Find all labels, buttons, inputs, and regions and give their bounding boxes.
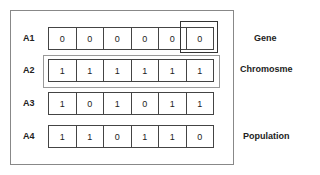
cell: 1 [159,60,187,81]
row-a2-cells: 1 1 1 1 1 1 [48,59,214,82]
cell: 0 [77,93,105,114]
cell: 1 [49,93,77,114]
cell: 0 [187,126,214,147]
cell: 1 [49,60,77,81]
cell: 0 [132,28,160,49]
row-a4-cells: 1 1 0 1 1 0 [48,125,214,148]
row-label-a2: A2 [23,65,43,75]
cell: 1 [132,126,160,147]
cell: 1 [159,126,187,147]
cell: 1 [104,60,132,81]
gene-label: Gene [254,33,277,43]
population-label: Population [243,131,290,141]
cell: 1 [104,93,132,114]
cell: 0 [104,126,132,147]
cell: 0 [49,28,77,49]
cell: 1 [132,60,160,81]
cell: 1 [77,60,105,81]
row-label-a3: A3 [23,98,43,108]
chromosome-label: Chromosme [240,64,293,74]
cell: 0 [104,28,132,49]
cell: 1 [187,93,214,114]
row-label-a1: A1 [23,33,43,43]
row-label-a4: A4 [23,131,43,141]
cell: 0 [132,93,160,114]
gene-highlight [180,21,218,53]
row-a3-cells: 1 0 1 0 1 1 [48,92,214,115]
cell: 1 [187,60,214,81]
cell: 1 [49,126,77,147]
cell: 1 [77,126,105,147]
cell: 1 [159,93,187,114]
cell: 0 [77,28,105,49]
